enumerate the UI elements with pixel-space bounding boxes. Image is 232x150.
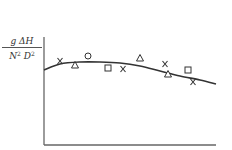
cross-marker — [58, 58, 63, 64]
scatter-chart — [0, 0, 232, 150]
cross-marker — [163, 61, 168, 67]
square-marker — [185, 67, 191, 73]
square-marker — [105, 65, 111, 71]
cross-marker — [191, 79, 196, 85]
circle-marker — [85, 53, 91, 59]
triangle-marker — [137, 55, 144, 62]
cross-marker — [121, 66, 126, 72]
data-markers — [58, 53, 196, 85]
